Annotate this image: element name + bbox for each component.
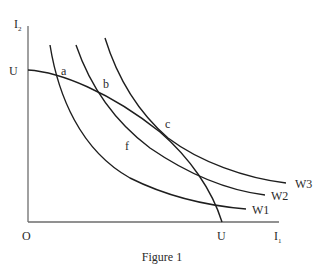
point-c-label: c [165, 117, 170, 131]
point-f-label: f [125, 139, 129, 153]
figure-caption: Figure 1 [142, 250, 182, 264]
x-axis-label: I1 [274, 229, 282, 245]
origin-label: O [22, 229, 31, 243]
w2-label: W2 [271, 189, 288, 203]
welfare-diagram: I2 U O U I1 W1 W2 W3 a b c f Figure 1 [0, 0, 325, 266]
y-axis-label: I2 [14, 17, 22, 33]
w3-curve [105, 38, 286, 183]
y-intercept-label: U [9, 64, 18, 78]
w1-label: W1 [252, 203, 269, 217]
point-b-label: b [103, 77, 109, 91]
point-a-label: a [61, 64, 67, 78]
w1-curve [50, 45, 246, 209]
x-intercept-label: U [217, 229, 226, 243]
w3-label: W3 [295, 177, 312, 191]
